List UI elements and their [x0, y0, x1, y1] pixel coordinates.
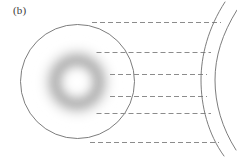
- blurred-ring-group: [37, 42, 117, 122]
- blurred-ring-icon: [37, 42, 117, 122]
- figure-canvas: [0, 0, 237, 158]
- figure-panel: (b): [0, 0, 237, 158]
- lens-arc-inner: [201, 2, 225, 156]
- lens-arc-outer: [215, 10, 237, 150]
